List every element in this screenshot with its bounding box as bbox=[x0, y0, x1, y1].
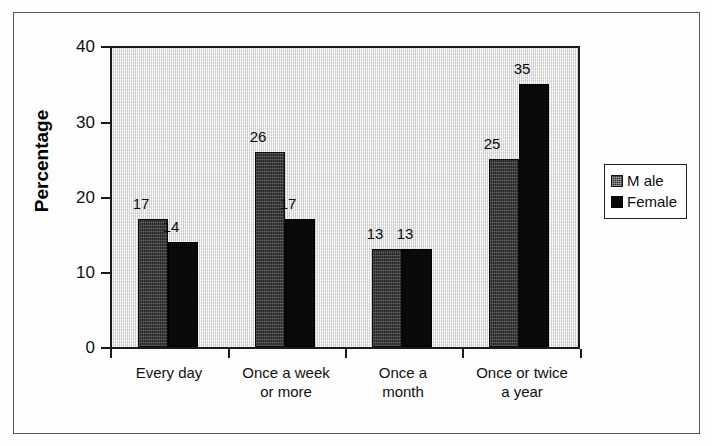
legend-item-female[interactable]: Female bbox=[611, 191, 680, 212]
x-category-label-4-line-1: Once or twice bbox=[463, 364, 581, 383]
y-tick-mark-40 bbox=[101, 46, 110, 48]
x-category-label-1-line-1: Every day bbox=[112, 364, 226, 383]
y-tick-20: 20 bbox=[50, 189, 95, 207]
data-label-male-4: 25 bbox=[472, 136, 512, 151]
bar-male-2[interactable] bbox=[255, 152, 285, 347]
bar-male-4[interactable] bbox=[489, 159, 519, 347]
x-category-label-1: Every day bbox=[112, 364, 226, 383]
bar-male-3[interactable] bbox=[372, 249, 402, 347]
bar-female-2[interactable] bbox=[285, 219, 315, 347]
bar-chart-figure: Percentage 40 30 20 10 0 17 14 26 17 13 bbox=[0, 0, 712, 446]
legend-swatch-male-icon bbox=[611, 175, 623, 187]
y-tick-label-0: 0 bbox=[55, 339, 95, 356]
x-category-label-2: Once a week or more bbox=[229, 364, 343, 402]
y-tick-label-10: 10 bbox=[55, 264, 95, 281]
x-category-label-3-line-2: month bbox=[346, 383, 460, 402]
y-tick-mark-10 bbox=[101, 272, 110, 274]
data-label-female-1: 14 bbox=[151, 219, 191, 234]
x-tick-mark-1 bbox=[228, 349, 230, 358]
x-category-label-2-line-2: or more bbox=[229, 383, 343, 402]
data-label-male-1: 17 bbox=[121, 196, 161, 211]
y-tick-0: 0 bbox=[50, 339, 95, 357]
y-axis-title: Percentage bbox=[31, 81, 53, 241]
data-label-male-2: 26 bbox=[238, 129, 278, 144]
legend-label-male: M ale bbox=[627, 172, 664, 189]
y-tick-label-40: 40 bbox=[55, 38, 95, 55]
x-tick-mark-2 bbox=[345, 349, 347, 358]
y-tick-mark-30 bbox=[101, 122, 110, 124]
data-label-female-2: 17 bbox=[268, 196, 308, 211]
legend-swatch-female-icon bbox=[611, 196, 623, 208]
y-tick-10: 10 bbox=[50, 264, 95, 282]
y-tick-30: 30 bbox=[50, 114, 95, 132]
bar-female-3[interactable] bbox=[402, 249, 432, 347]
legend-item-male[interactable]: M ale bbox=[611, 170, 680, 191]
y-tick-mark-0 bbox=[101, 347, 110, 349]
data-label-female-3: 13 bbox=[385, 226, 425, 241]
x-tick-mark-4 bbox=[580, 349, 582, 358]
bar-female-1[interactable] bbox=[168, 242, 198, 347]
bar-male-1[interactable] bbox=[138, 219, 168, 347]
legend-label-female: Female bbox=[627, 193, 677, 210]
x-tick-mark-0 bbox=[110, 349, 112, 358]
chart-legend: M ale Female bbox=[604, 164, 687, 219]
x-tick-mark-3 bbox=[462, 349, 464, 358]
y-tick-40: 40 bbox=[50, 38, 95, 56]
y-tick-label-30: 30 bbox=[55, 114, 95, 131]
x-category-label-3-line-1: Once a bbox=[346, 364, 460, 383]
data-label-female-4: 35 bbox=[502, 61, 542, 76]
x-category-label-2-line-1: Once a week bbox=[229, 364, 343, 383]
x-category-label-4-line-2: a year bbox=[463, 383, 581, 402]
x-category-label-4: Once or twice a year bbox=[463, 364, 581, 402]
bar-female-4[interactable] bbox=[519, 84, 549, 347]
y-tick-label-20: 20 bbox=[55, 189, 95, 206]
y-tick-mark-20 bbox=[101, 197, 110, 199]
plot-area bbox=[110, 46, 580, 349]
x-category-label-3: Once a month bbox=[346, 364, 460, 402]
